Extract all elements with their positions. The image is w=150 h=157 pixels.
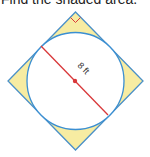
geometry-figure: 8 ft <box>0 0 150 157</box>
center-dot <box>73 79 77 83</box>
